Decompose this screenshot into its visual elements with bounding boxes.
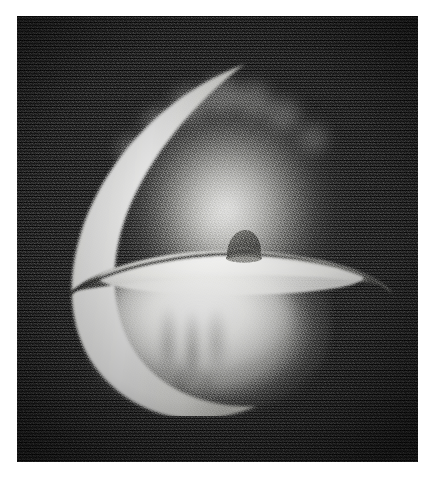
halo-turbulent-edge [113, 64, 343, 184]
upper-diffuse-halo [92, 41, 364, 311]
lower-bulb-shadow [87, 316, 157, 406]
equatorial-disk-plane [63, 244, 393, 316]
plate-vignette [17, 16, 418, 462]
film-grain-layer-base [17, 16, 418, 462]
lower-bulb-wisps [137, 298, 257, 418]
film-grain-layer-speckle [17, 16, 418, 462]
figure-root [0, 0, 423, 481]
central-dome [223, 225, 265, 265]
lower-bulb-core [101, 278, 311, 398]
upper-halo-fringe [105, 58, 355, 308]
film-grain-layer-dust [17, 16, 418, 462]
lower-bright-bulb [83, 271, 331, 431]
figure-caption [17, 466, 418, 479]
bright-crescent-limb [45, 56, 285, 416]
film-grain-layer-weave [17, 16, 418, 462]
photographic-plate [17, 16, 418, 462]
